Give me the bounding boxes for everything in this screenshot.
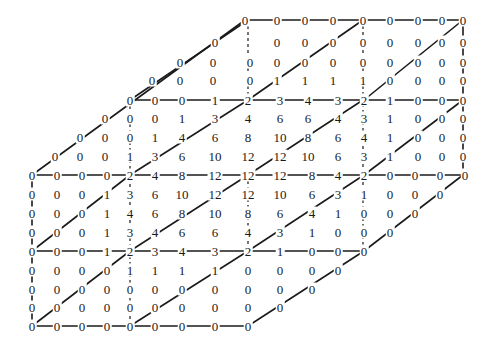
lattice-value: 4 bbox=[244, 112, 253, 125]
lattice-value: 1 bbox=[308, 226, 317, 239]
lattice-value: 1 bbox=[386, 131, 395, 144]
lattice-value: 1 bbox=[360, 188, 369, 201]
lattice-value: 0 bbox=[244, 264, 253, 277]
lattice-value: 1 bbox=[276, 245, 285, 258]
diagonal-edge bbox=[130, 175, 248, 251]
lattice-value: 0 bbox=[101, 131, 110, 144]
lattice-value: 4 bbox=[178, 245, 187, 258]
lattice-value: 10 bbox=[301, 150, 316, 163]
lattice-value: 2 bbox=[126, 245, 135, 258]
lattice-value: 6 bbox=[151, 207, 160, 220]
lattice-value: 0 bbox=[301, 56, 310, 69]
lattice-value: 0 bbox=[178, 283, 187, 296]
lattice-value: 0 bbox=[329, 56, 338, 69]
lattice-value: 1 bbox=[386, 112, 395, 125]
lattice-value: 0 bbox=[126, 301, 135, 314]
lattice-value: 0 bbox=[241, 14, 250, 27]
lattice-value: 2 bbox=[360, 169, 369, 182]
lattice-value: 0 bbox=[78, 283, 87, 296]
lattice-value: 0 bbox=[436, 169, 445, 182]
lattice-value: 10 bbox=[273, 188, 288, 201]
lattice-value: 0 bbox=[459, 131, 468, 144]
diagonal-edge bbox=[248, 175, 364, 251]
lattice-value: 0 bbox=[438, 150, 447, 163]
lattice-value: 0 bbox=[178, 320, 187, 333]
lattice-value: 1 bbox=[211, 94, 220, 107]
lattice-value: 1 bbox=[178, 264, 187, 277]
lattice-value: 0 bbox=[276, 264, 285, 277]
lattice-value: 0 bbox=[53, 226, 62, 239]
lattice-value: 10 bbox=[273, 131, 288, 144]
diagonal-edge bbox=[130, 20, 248, 100]
lattice-value: 0 bbox=[334, 226, 343, 239]
lattice-value: 0 bbox=[103, 264, 112, 277]
lattice-value: 0 bbox=[459, 56, 468, 69]
lattice-value: 0 bbox=[386, 74, 395, 87]
lattice-value: 4 bbox=[334, 112, 343, 125]
lattice-value: 3 bbox=[151, 150, 160, 163]
lattice-value: 0 bbox=[386, 36, 395, 49]
lattice-value: 0 bbox=[176, 74, 185, 87]
lattice-value: 0 bbox=[276, 283, 285, 296]
lattice-value: 0 bbox=[78, 320, 87, 333]
lattice-value: 0 bbox=[459, 150, 468, 163]
lattice-value: 0 bbox=[28, 169, 37, 182]
lattice-value: 4 bbox=[308, 207, 317, 220]
lattice-value: 0 bbox=[126, 320, 135, 333]
lattice-value: 4 bbox=[334, 169, 343, 182]
lattice-value: 0 bbox=[178, 94, 187, 107]
lattice-value: 0 bbox=[53, 188, 62, 201]
lattice-value: 0 bbox=[334, 264, 343, 277]
lattice-value: 2 bbox=[126, 169, 135, 182]
lattice-value: 4 bbox=[151, 169, 160, 182]
lattice-value: 0 bbox=[276, 301, 285, 314]
lattice-value: 12 bbox=[273, 150, 288, 163]
lattice-value: 12 bbox=[241, 150, 256, 163]
lattice-value: 6 bbox=[151, 188, 160, 201]
lattice-value: 0 bbox=[176, 56, 185, 69]
lattice-value: 12 bbox=[273, 169, 288, 182]
lattice-value: 10 bbox=[175, 188, 190, 201]
lattice-value: 0 bbox=[103, 301, 112, 314]
lattice-value: 0 bbox=[414, 94, 423, 107]
lattice-value: 0 bbox=[78, 169, 87, 182]
lattice-value: 1 bbox=[151, 131, 160, 144]
lattice-value: 4 bbox=[244, 226, 253, 239]
lattice-value: 0 bbox=[459, 36, 468, 49]
lattice-value: 0 bbox=[101, 112, 110, 125]
lattice-value: 0 bbox=[244, 320, 253, 333]
lattice-value: 3 bbox=[334, 188, 343, 201]
lattice-value: 3 bbox=[276, 226, 285, 239]
lattice-value: 0 bbox=[308, 283, 317, 296]
lattice-value: 0 bbox=[411, 169, 420, 182]
lattice-value: 0 bbox=[308, 264, 317, 277]
lattice-value: 1 bbox=[151, 264, 160, 277]
lattice-value: 8 bbox=[178, 207, 187, 220]
lattice-value: 0 bbox=[211, 320, 220, 333]
lattice-value: 0 bbox=[126, 283, 135, 296]
lattice-value: 0 bbox=[301, 36, 310, 49]
lattice-value: 0 bbox=[211, 36, 220, 49]
lattice-value: 1 bbox=[103, 207, 112, 220]
lattice-value: 0 bbox=[28, 245, 37, 258]
lattice-value: 0 bbox=[148, 74, 157, 87]
lattice-value: 0 bbox=[360, 245, 369, 258]
lattice-value: 0 bbox=[78, 245, 87, 258]
lattice-value: 6 bbox=[334, 150, 343, 163]
lattice-value: 0 bbox=[414, 131, 423, 144]
lattice-value: 0 bbox=[360, 207, 369, 220]
lattice-value: 0 bbox=[386, 56, 395, 69]
lattice-value: 0 bbox=[246, 74, 255, 87]
lattice-value: 0 bbox=[459, 112, 468, 125]
lattice-value: 0 bbox=[76, 150, 85, 163]
diagonal-edge bbox=[248, 251, 364, 326]
lattice-value: 0 bbox=[151, 301, 160, 314]
diagonal-edge bbox=[130, 251, 248, 326]
lattice-value: 10 bbox=[208, 150, 223, 163]
lattice-value: 2 bbox=[244, 94, 253, 107]
lattice-value: 1 bbox=[359, 74, 368, 87]
lattice-value: 0 bbox=[151, 94, 160, 107]
lattice-value: 6 bbox=[304, 112, 313, 125]
lattice-value: 1 bbox=[334, 207, 343, 220]
lattice-value: 0 bbox=[53, 169, 62, 182]
